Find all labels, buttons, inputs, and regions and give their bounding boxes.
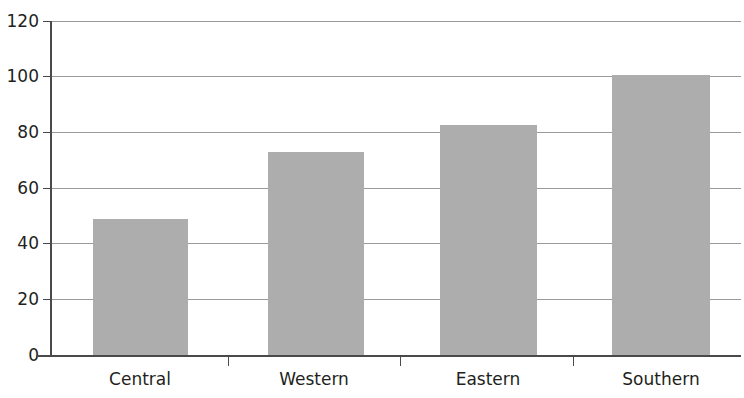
x-axis-label-western: Western	[254, 371, 374, 388]
x-tick-mark-3	[573, 357, 574, 366]
y-axis-label-120: 120	[0, 13, 39, 30]
bar-southern	[612, 75, 710, 355]
y-axis-line	[50, 21, 52, 356]
bar-chart: 120 100 80 60 40 20 0 Central Western Ea…	[0, 0, 744, 398]
y-axis-label-100: 100	[0, 68, 39, 85]
bar-eastern	[440, 125, 537, 355]
x-tick-mark-1	[228, 357, 229, 366]
bar-central	[93, 219, 188, 355]
x-axis-line	[36, 355, 741, 357]
y-axis-label-40: 40	[0, 235, 39, 252]
y-axis-label-60: 60	[0, 180, 39, 197]
x-axis-label-central: Central	[80, 371, 200, 388]
gridline-120	[50, 21, 741, 22]
y-axis-label-20: 20	[0, 291, 39, 308]
x-tick-mark-2	[400, 357, 401, 366]
x-axis-label-eastern: Eastern	[428, 371, 548, 388]
x-axis-label-southern: Southern	[600, 371, 722, 388]
y-axis-label-0: 0	[0, 347, 39, 364]
bar-western	[268, 152, 364, 355]
y-axis-label-80: 80	[0, 124, 39, 141]
